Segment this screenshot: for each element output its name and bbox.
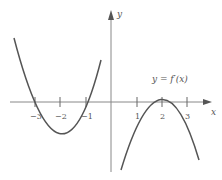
x-axis-label: x — [211, 107, 216, 117]
y-axis-label: y — [116, 9, 123, 19]
tick-label-1: 1 — [135, 112, 140, 121]
curve-label: y = f′(x) — [151, 74, 188, 84]
tick-label-neg2: −2 — [55, 112, 67, 121]
y-axis-arrow-icon — [108, 10, 114, 20]
tick-label-neg1: −1 — [81, 112, 93, 121]
x-axis-arrow-icon — [203, 99, 212, 105]
tick-label-neg3: −3 — [30, 112, 42, 121]
right-parabola — [121, 99, 199, 170]
derivative-graph: −3 −2 −1 1 2 3 x y y = f′(x) — [0, 0, 222, 180]
y-axis — [108, 10, 114, 172]
tick-label-2: 2 — [160, 112, 165, 121]
tick-label-3: 3 — [185, 112, 190, 121]
